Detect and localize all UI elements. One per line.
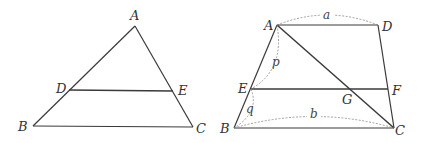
label-G-right: G bbox=[342, 92, 352, 107]
label-B-left: B bbox=[17, 119, 28, 134]
label-D-right: D bbox=[381, 19, 393, 34]
segment-DC bbox=[378, 25, 394, 128]
segment-AB bbox=[33, 26, 135, 126]
dim-label-p: p bbox=[272, 55, 280, 69]
segment-AC bbox=[135, 26, 193, 127]
label-C-left: C bbox=[196, 121, 206, 136]
label-C-right: C bbox=[395, 123, 405, 138]
segment-AB bbox=[234, 25, 277, 128]
dim-label-q: q bbox=[246, 102, 254, 116]
dim-label-b: b bbox=[310, 107, 318, 121]
segment-BC bbox=[33, 126, 193, 127]
triangle-figure bbox=[33, 26, 193, 127]
segment-AC bbox=[277, 25, 394, 128]
label-E-left: E bbox=[177, 83, 188, 98]
label-F-right: F bbox=[391, 83, 402, 98]
geometry-figure: A B C D E a b p q A D E F G B C bbox=[0, 0, 426, 143]
label-A-right: A bbox=[263, 18, 273, 33]
label-D-left: D bbox=[55, 81, 67, 96]
segment-DE bbox=[69, 90, 173, 91]
dim-label-a: a bbox=[323, 8, 330, 22]
label-E-right: E bbox=[237, 81, 248, 96]
label-A-left: A bbox=[129, 8, 139, 23]
label-B-right: B bbox=[219, 121, 230, 136]
